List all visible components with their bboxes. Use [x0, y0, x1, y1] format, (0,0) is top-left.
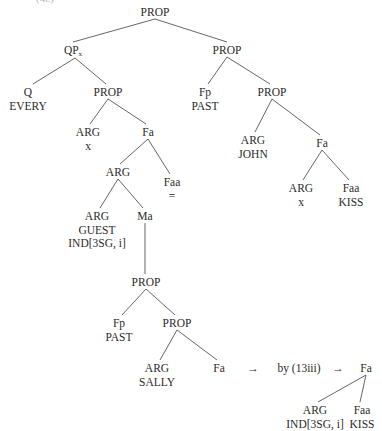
node-category: PROP: [258, 86, 287, 100]
tree-edge: [146, 289, 175, 315]
tree-edge: [73, 19, 155, 42]
node-content: GUEST: [68, 224, 126, 238]
node-content: IND[3SG, i]: [68, 237, 126, 251]
tree-edge: [33, 58, 75, 84]
tree-edge: [148, 139, 170, 174]
node-category: Faa: [350, 404, 375, 418]
node-content: x: [289, 196, 313, 210]
tree-node-prop_emb2: PROP: [163, 317, 192, 331]
tree-node-arg_john: ARGJOHN: [238, 134, 267, 161]
tree-node-arg_mid: ARG: [106, 166, 130, 180]
tree-edge: [120, 139, 148, 164]
node-category: PROP: [94, 86, 123, 100]
tree-edge: [322, 150, 349, 180]
tree-node-fp_r: FpPAST: [191, 86, 218, 113]
tree-edge: [155, 19, 227, 42]
tree-edge: [255, 99, 272, 132]
node-content: SALLY: [139, 376, 175, 390]
tree-node-faa_kiss2: FaaKISS: [350, 404, 375, 431]
node-content: KISS: [350, 418, 375, 431]
node-category: ARG: [289, 182, 313, 196]
tree-node-arg_x2: ARGx: [289, 182, 313, 209]
node-category: Q: [9, 86, 47, 100]
tree-node-fa_r: Fa: [316, 137, 328, 151]
tree-edge: [177, 330, 217, 360]
tree-edge: [272, 99, 320, 135]
node-content: PAST: [105, 331, 132, 345]
node-content: PAST: [191, 100, 218, 114]
node-content: EVERY: [9, 100, 47, 114]
node-category: Fp: [191, 86, 218, 100]
tree-node-fa_out: Fa: [360, 362, 372, 376]
tree-edge: [90, 99, 108, 124]
tree-edge: [122, 289, 146, 315]
tree-edge: [303, 150, 322, 180]
tree-node-qp: QPx: [64, 44, 82, 62]
tree-node-prop_emb: PROP: [132, 276, 161, 290]
tree-node-fa_emb: Fa: [213, 362, 225, 376]
tree-node-prop_l: PROP: [94, 86, 123, 100]
tree-node-fa_l: Fa: [142, 126, 154, 140]
arrow-right-icon: →: [332, 362, 344, 376]
tree-node-ma: Ma: [137, 210, 152, 224]
node-category: ARG: [139, 362, 175, 376]
node-category: Ma: [137, 210, 152, 224]
node-category: ARG: [286, 404, 344, 418]
node-category: ARG: [76, 126, 100, 140]
tree-edge: [318, 375, 366, 402]
node-content: KISS: [339, 196, 364, 210]
tree-node-prop_r2: PROP: [258, 86, 287, 100]
node-content: IND[3SG, i]: [286, 418, 344, 431]
node-category: Fa: [142, 126, 154, 140]
node-category: PROP: [141, 6, 170, 20]
node-category: Fp: [105, 317, 132, 331]
node-category: Fa: [213, 362, 225, 376]
tree-node-arg_ind: ARGIND[3SG, i]: [286, 404, 344, 431]
tree-edge: [360, 375, 366, 402]
tree-edge: [118, 179, 143, 208]
tree-node-faa_eq: Faa=: [164, 176, 181, 203]
node-category: PROP: [132, 276, 161, 290]
node-content: JOHN: [238, 148, 267, 162]
node-category: Fa: [360, 362, 372, 376]
tree-edge: [227, 57, 270, 84]
tree-node-faa_kiss: FaaKISS: [339, 182, 364, 209]
tree-edge: [75, 58, 106, 84]
node-category: Fa: [316, 137, 328, 151]
derivation-rule-label: by (13iii): [277, 362, 320, 376]
tree-edge: [108, 99, 146, 124]
node-category: ARG: [238, 134, 267, 148]
node-category: Faa: [164, 176, 181, 190]
node-content: x: [76, 140, 100, 154]
arrow-right-icon: →: [247, 362, 259, 376]
node-category: QPx: [64, 44, 82, 62]
tree-node-fp_emb: FpPAST: [105, 317, 132, 344]
tree-node-arg_sally: ARGSALLY: [139, 362, 175, 389]
tree-edge: [100, 179, 118, 208]
node-content: =: [164, 190, 181, 204]
tree-edge: [208, 57, 227, 84]
tree-node-arg_x: ARGx: [76, 126, 100, 153]
node-category: PROP: [213, 44, 242, 58]
tree-edge: [160, 330, 177, 360]
tree-node-prop_r: PROP: [213, 44, 242, 58]
node-category: Faa: [339, 182, 364, 196]
node-subscript: x: [79, 50, 83, 58]
node-category: ARG: [106, 166, 130, 180]
tree-node-q: QEVERY: [9, 86, 47, 113]
tree-node-root: PROP: [141, 6, 170, 20]
tree-node-arg_guest: ARGGUESTIND[3SG, i]: [68, 210, 126, 251]
node-category: PROP: [163, 317, 192, 331]
node-category: ARG: [68, 210, 126, 224]
